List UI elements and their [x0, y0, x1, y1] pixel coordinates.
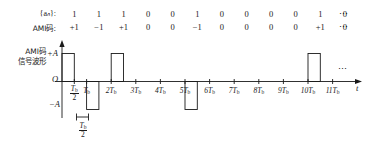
tick-text: 2Tb [106, 86, 117, 95]
tick-text: 9Tb [278, 86, 289, 95]
pulse-width-fraction: Tb 2 [79, 122, 88, 139]
x-tick-label: 7Tb [221, 86, 247, 95]
tick-text: 5Tb [180, 86, 191, 95]
x-tick-label: 6Tb [197, 86, 223, 95]
positive-pulse [308, 54, 320, 82]
x-tick-label: 9Tb [270, 86, 296, 95]
tick-text: 3Tb [130, 86, 141, 95]
x-tick-label: 8Tb [246, 86, 272, 95]
tick-text: 4Tb [155, 86, 166, 95]
positive-pulse [111, 54, 123, 82]
tick-text: 6Tb [204, 86, 215, 95]
pulse-width-label: Tb 2 [72, 120, 94, 139]
pw-num-sub: b [84, 124, 87, 130]
tick-text: 11Tb [326, 86, 340, 95]
x-tick-label: 11Tb [320, 86, 346, 95]
tick-text: 10Tb [301, 86, 315, 95]
x-tick-label: Tb [74, 86, 100, 95]
tick-text: Tb [83, 86, 90, 95]
waveform-plot [0, 0, 377, 144]
positive-pulse [62, 54, 74, 82]
tick-text: 8Tb [253, 86, 264, 95]
x-tick-label: 5Tb [172, 86, 198, 95]
x-tick-label: 2Tb [98, 86, 124, 95]
x-tick-label: 3Tb [123, 86, 149, 95]
x-tick-label: 4Tb [147, 86, 173, 95]
tick-text: 7Tb [229, 86, 240, 95]
x-tick-label: 10Tb [295, 86, 321, 95]
pw-den: 2 [79, 131, 88, 139]
ami-waveform-figure: {aₙ}: AMI码: 111001000010 +1−1+100−10000+… [0, 0, 377, 144]
